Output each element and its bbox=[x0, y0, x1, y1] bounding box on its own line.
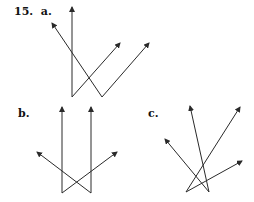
figure-15: 15. a. b. c. bbox=[0, 0, 254, 202]
ray-b-3 bbox=[62, 152, 117, 193]
ray-c-4 bbox=[186, 161, 242, 192]
rays-diagram bbox=[0, 0, 254, 202]
ray-c-3 bbox=[186, 107, 240, 192]
ray-a-3 bbox=[52, 23, 102, 97]
ray-a-4 bbox=[102, 43, 149, 97]
ray-c-1 bbox=[190, 106, 209, 192]
ray-b-4 bbox=[37, 152, 91, 193]
